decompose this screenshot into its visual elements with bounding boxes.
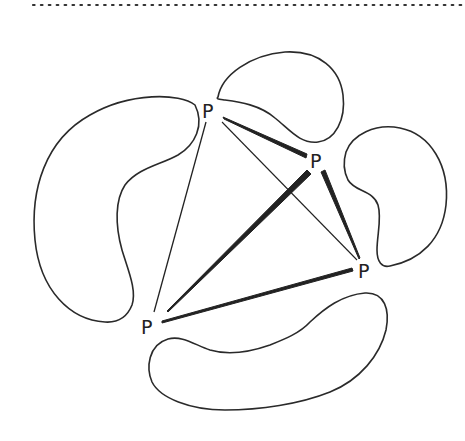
node-p1: P [202,100,213,122]
node-p3: P [358,260,369,282]
blob-top [217,52,343,142]
edge-p2-p3 [321,170,360,259]
node-p2: P [310,150,321,172]
blob-left [34,97,199,322]
edge-p2-p4 [167,170,311,312]
edge-p4-p3 [162,268,353,323]
blob-bottom [149,293,387,410]
node-p4: P [141,316,152,338]
edge-p1-p2 [223,117,307,158]
diagram-canvas: P P P P [0,0,465,441]
blob-right [344,127,446,267]
